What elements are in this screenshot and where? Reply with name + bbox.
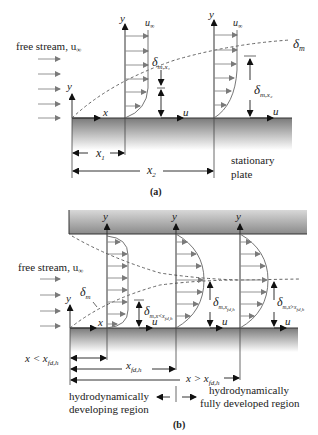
caption-a: (a) bbox=[150, 186, 162, 198]
region-developing-line1: hydrodynamically bbox=[69, 390, 150, 402]
svg-text:u: u bbox=[152, 315, 158, 327]
region-developing-line2: developing region bbox=[69, 403, 149, 415]
dim-x-less-label: x < xfd,h bbox=[24, 352, 59, 367]
y-axis-label-a: y bbox=[66, 80, 72, 92]
svg-text:y: y bbox=[171, 210, 177, 222]
panel-b: free stream, u∞ y x δm y bbox=[18, 210, 307, 431]
svg-text:y: y bbox=[65, 292, 71, 304]
stationary-plate bbox=[72, 118, 292, 150]
velocity-profile-x2: y u∞ bbox=[208, 8, 243, 118]
boundary-layer-edge-lower bbox=[70, 279, 300, 328]
plate-label-line2: plate bbox=[231, 168, 252, 180]
delta-after-label: δm,x>xfd,h bbox=[277, 295, 305, 313]
svg-text:u: u bbox=[222, 315, 228, 327]
free-stream-label-b: free stream, u∞ bbox=[18, 261, 83, 275]
panel-a: free stream, u∞ y x δm y u∞ δm,x₁ u bbox=[16, 8, 305, 198]
caption-b: (b) bbox=[173, 419, 185, 431]
boundary-layer-diagram: free stream, u∞ y x δm y u∞ δm,x₁ u bbox=[0, 0, 318, 435]
region-fully-developed-line2: fully developed region bbox=[200, 397, 300, 409]
delta-developing-label: δm,x<xfd,h bbox=[144, 304, 173, 322]
dim-x-fd-label: xfd,h bbox=[125, 359, 142, 374]
svg-text:y: y bbox=[235, 210, 241, 222]
x-axis-label-a: x bbox=[102, 106, 108, 118]
u-inf-label-1: u∞ bbox=[145, 17, 155, 29]
boundary-layer-edge-upper bbox=[72, 236, 240, 280]
region-fully-developed-line1: hydrodynamically bbox=[209, 384, 290, 396]
delta-m-label-b: δm bbox=[80, 285, 91, 301]
svg-text:u: u bbox=[285, 315, 291, 327]
svg-text:x: x bbox=[97, 316, 103, 328]
plate-label-line1: stationary bbox=[231, 154, 275, 166]
delta-m-x1-label: δm,x₁ bbox=[152, 55, 170, 71]
u-inf-label-2: u∞ bbox=[233, 17, 243, 29]
free-stream-arrows-a bbox=[38, 59, 60, 118]
velocity-profile-x1: y u∞ bbox=[119, 12, 155, 118]
x2-label: x2 bbox=[146, 163, 156, 179]
svg-text:u: u bbox=[183, 106, 189, 118]
lower-plate bbox=[70, 328, 298, 352]
delta-fd-label: δm,xfd,h bbox=[213, 295, 235, 313]
svg-text:u: u bbox=[273, 105, 279, 117]
svg-text:y: y bbox=[102, 210, 108, 222]
svg-text:y: y bbox=[119, 12, 125, 24]
delta-m-label-a: δm bbox=[293, 36, 305, 53]
svg-text:y: y bbox=[208, 8, 214, 20]
delta-m-x2-label: δm,x₂ bbox=[254, 82, 273, 99]
free-stream-arrows-b bbox=[40, 279, 60, 326]
free-stream-label-a: free stream, u∞ bbox=[16, 40, 81, 54]
